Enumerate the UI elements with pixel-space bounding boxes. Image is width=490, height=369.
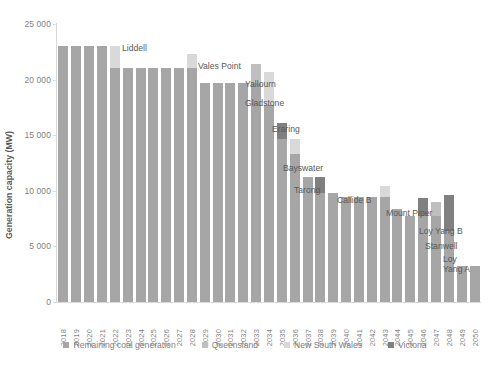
chart-legend: Remaining coal generationQueenslandNew S… (0, 340, 490, 350)
plant-callout-label: Tarong (294, 186, 320, 196)
plant-callout-label: Yallourn (245, 80, 276, 90)
bar-segment (290, 154, 300, 302)
generation-capacity-chart: Generation capacity (MW) 05 00010 00015 … (0, 0, 490, 369)
legend-label: Victoria (398, 340, 427, 350)
bar-segment (431, 202, 441, 216)
plant-callout-label: Vales Point (198, 62, 241, 72)
bar-column[interactable] (328, 193, 338, 302)
y-tick-mark (53, 246, 57, 247)
bar-column[interactable] (225, 83, 235, 302)
bar-segment (470, 266, 480, 302)
plant-callout-label: Loy Yang B (419, 227, 463, 237)
bar-segment (392, 209, 402, 302)
bar-column[interactable] (277, 123, 287, 302)
bar-segment (405, 216, 415, 302)
bar-column[interactable] (431, 202, 441, 302)
bar-segment (148, 68, 158, 302)
bar-column[interactable] (110, 46, 120, 302)
bar-column[interactable] (380, 186, 390, 302)
bar-segment (213, 83, 223, 302)
legend-item[interactable]: New South Wales (284, 340, 362, 350)
bar-column[interactable] (238, 83, 248, 302)
bar-segment (380, 186, 390, 197)
y-tick-mark (53, 135, 57, 136)
legend-label: New South Wales (294, 340, 362, 350)
y-tick-label: 15 000 (24, 130, 51, 140)
bar-column[interactable] (71, 46, 81, 302)
bar-segment (187, 68, 197, 302)
plant-callout-label: Stanwell (425, 242, 457, 252)
bar-column[interactable] (367, 197, 377, 302)
bar-segment (58, 46, 68, 302)
bar-segment (225, 83, 235, 302)
bar-segment (264, 105, 274, 302)
x-axis-line (56, 302, 481, 303)
bar-segment (290, 139, 300, 155)
bar-column[interactable] (303, 177, 313, 302)
bar-column[interactable] (470, 266, 480, 302)
plant-callout-label: Callide B (337, 196, 371, 206)
bar-column[interactable] (58, 46, 68, 302)
plant-callout-label: Loy Yang A (443, 255, 470, 274)
bar-column[interactable] (315, 177, 325, 302)
y-tick-mark (53, 24, 57, 25)
bar-column[interactable] (148, 68, 158, 302)
bar-segment (341, 197, 351, 302)
bar-column[interactable] (213, 83, 223, 302)
bar-segment (251, 83, 261, 302)
bar-segment (315, 193, 325, 302)
y-tick-label: 25 000 (24, 19, 51, 29)
bar-column[interactable] (161, 68, 171, 302)
y-tick-mark (53, 191, 57, 192)
legend-item[interactable]: Victoria (388, 340, 427, 350)
bar-segment (84, 46, 94, 302)
plant-callout-label: Mount Piper (386, 209, 432, 219)
legend-swatch-icon (202, 342, 208, 348)
y-tick-label: 20 000 (24, 75, 51, 85)
bar-column[interactable] (392, 209, 402, 302)
bar-segment (238, 83, 248, 302)
bar-segment (367, 197, 377, 302)
legend-item[interactable]: Queensland (202, 340, 258, 350)
plant-callout-label: Eraring (272, 125, 300, 135)
bar-segment (174, 68, 184, 302)
legend-swatch-icon (284, 342, 290, 348)
plant-callout-label: Gladstone (245, 99, 284, 109)
bar-column[interactable] (84, 46, 94, 302)
bar-segment (110, 46, 120, 68)
bar-segment (161, 68, 171, 302)
legend-label: Remaining coal generation (73, 340, 175, 350)
legend-swatch-icon (63, 342, 69, 348)
bar-column[interactable] (200, 83, 210, 302)
bar-segment (123, 68, 133, 302)
bar-segment (303, 177, 313, 302)
bar-segment (71, 46, 81, 302)
bar-segment (97, 46, 107, 302)
bar-segment (110, 68, 120, 302)
y-axis-title: Generation capacity (MW) (4, 120, 14, 250)
y-tick-label: 10 000 (24, 186, 51, 196)
bar-column[interactable] (174, 68, 184, 302)
legend-swatch-icon (388, 342, 394, 348)
bar-segment (328, 193, 338, 302)
bar-segment (136, 68, 146, 302)
y-tick-label: 5 000 (29, 241, 51, 251)
y-tick-mark (53, 302, 57, 303)
bar-column[interactable] (97, 46, 107, 302)
bar-column[interactable] (136, 68, 146, 302)
y-tick-label: 0 (46, 297, 51, 307)
legend-label: Queensland (212, 340, 258, 350)
bar-column[interactable] (187, 54, 197, 302)
y-tick-mark (53, 80, 57, 81)
bar-column[interactable] (123, 68, 133, 302)
legend-item[interactable]: Remaining coal generation (63, 340, 175, 350)
bar-segment (354, 197, 364, 302)
bar-column[interactable] (354, 197, 364, 302)
bar-column[interactable] (341, 197, 351, 302)
plant-callout-label: Liddell (122, 44, 147, 54)
plot-area: 05 00010 00015 00020 00025 0002018201920… (57, 24, 481, 302)
bar-column[interactable] (405, 216, 415, 302)
bar-segment (200, 83, 210, 302)
plant-callout-label: Bayswater (283, 164, 323, 174)
bar-segment (187, 54, 197, 68)
